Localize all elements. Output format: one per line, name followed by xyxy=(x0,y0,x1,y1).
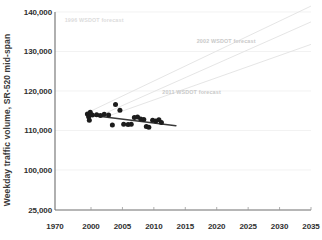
data-point xyxy=(146,125,151,130)
x-tick-label-group: 197020002005201020152020202520302035 xyxy=(0,222,322,236)
data-point xyxy=(87,118,92,123)
axis-lines xyxy=(55,12,311,210)
y-tick-label: 130,000 xyxy=(8,47,52,56)
data-point xyxy=(90,113,95,118)
y-tick-label: 120,000 xyxy=(8,87,52,96)
y-tick-label: 110,000 xyxy=(8,126,52,135)
data-point xyxy=(113,102,118,107)
x-tick-label: 2035 xyxy=(302,222,319,231)
x-tick-label: 2025 xyxy=(239,222,256,231)
y-tick-label-group: 140,000130,000120,000110,000100,00025,00… xyxy=(6,0,52,240)
x-tick-label: 2010 xyxy=(145,222,162,231)
x-tick-label: 2015 xyxy=(177,222,194,231)
forecast-line xyxy=(104,22,311,114)
forecast-label: 2011 WSDOT forecast xyxy=(162,89,221,95)
data-point xyxy=(121,122,126,127)
plot-area: 1996 WSDOT forecast2002 WSDOT forecast20… xyxy=(55,12,311,210)
data-point xyxy=(129,122,134,127)
data-point xyxy=(110,122,115,127)
data-point xyxy=(141,117,146,122)
forecast-label: 2002 WSDOT forecast xyxy=(197,38,256,44)
y-tick-label: 25,000 xyxy=(8,206,52,215)
chart-container: Weekday traffic volume, SR-520 mid-span … xyxy=(0,0,322,240)
forecast-line xyxy=(110,44,311,115)
data-point xyxy=(106,113,111,118)
x-tick-label: 2030 xyxy=(271,222,288,231)
x-tick-label: 2000 xyxy=(82,222,99,231)
y-tick-label: 100,000 xyxy=(8,166,52,175)
data-point xyxy=(117,108,122,113)
forecast-annotations: 1996 WSDOT forecast2002 WSDOT forecast20… xyxy=(65,17,256,95)
data-point xyxy=(159,120,164,125)
x-tick-label: 2020 xyxy=(208,222,225,231)
data-point xyxy=(102,112,107,117)
data-points xyxy=(85,102,164,130)
x-tick-label: 1970 xyxy=(46,222,63,231)
forecast-label: 1996 WSDOT forecast xyxy=(65,17,124,23)
plot-svg: 1996 WSDOT forecast2002 WSDOT forecast20… xyxy=(55,12,311,210)
x-tick-label: 2005 xyxy=(114,222,131,231)
y-tick-label: 140,000 xyxy=(8,8,52,17)
